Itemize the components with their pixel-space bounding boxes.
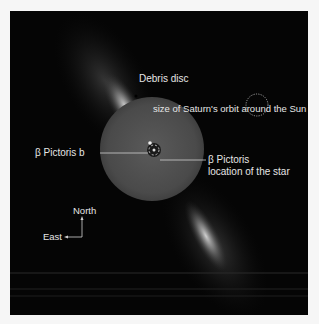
star-label-name: β Pictoris: [208, 154, 249, 166]
east-label: East: [43, 231, 62, 243]
planet-label: β Pictoris b: [35, 147, 85, 159]
saturn-orbit-label: size of Saturn's orbit around the Sun: [153, 103, 306, 115]
astronomy-image: Debris disc size of Saturn's orbit aroun…: [10, 11, 308, 315]
compass-arrows-icon: [64, 216, 84, 239]
north-label: North: [73, 205, 96, 217]
debris-disc-label: Debris disc: [139, 73, 188, 85]
star-dot: [153, 149, 156, 152]
dark-dot: [135, 95, 138, 98]
star-label-location: location of the star: [208, 166, 290, 178]
image-artwork: [10, 11, 308, 315]
planet-dot: [148, 141, 152, 145]
